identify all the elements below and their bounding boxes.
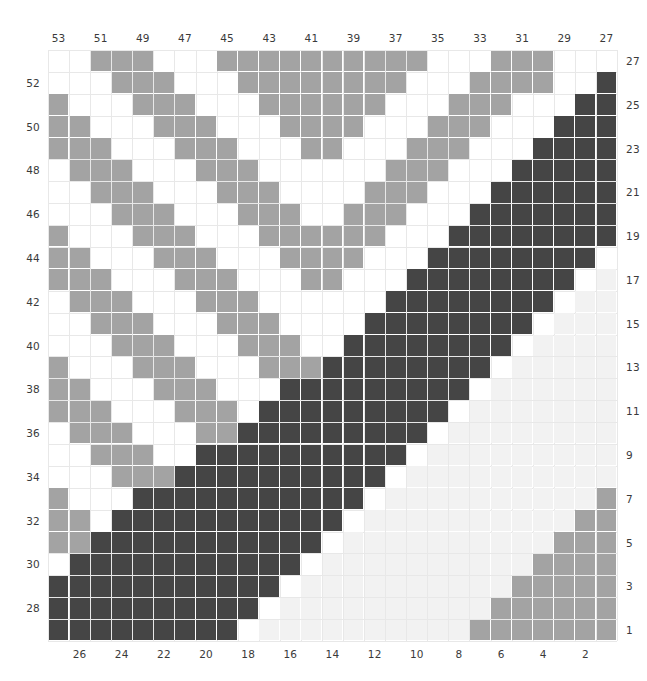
heatmap-cell[interactable] — [344, 357, 364, 378]
heatmap-cell[interactable] — [301, 138, 321, 159]
heatmap-cell[interactable] — [323, 423, 343, 444]
heatmap-cell[interactable] — [554, 335, 574, 356]
heatmap-cell[interactable] — [512, 204, 532, 225]
heatmap-cell[interactable] — [407, 576, 427, 597]
heatmap-cell[interactable] — [470, 291, 490, 312]
heatmap-cell[interactable] — [491, 182, 511, 203]
heatmap-cell[interactable] — [470, 401, 490, 422]
heatmap-cell[interactable] — [133, 510, 153, 531]
heatmap-cell[interactable] — [259, 357, 279, 378]
heatmap-cell[interactable] — [301, 445, 321, 466]
heatmap-cell[interactable] — [575, 313, 595, 334]
heatmap-cell[interactable] — [217, 554, 237, 575]
heatmap-cell[interactable] — [49, 116, 69, 137]
heatmap-cell[interactable] — [112, 313, 132, 334]
heatmap-cell[interactable] — [91, 291, 111, 312]
heatmap-cell[interactable] — [217, 576, 237, 597]
heatmap-cell[interactable] — [470, 94, 490, 115]
heatmap-cell[interactable] — [449, 269, 469, 290]
heatmap-cell[interactable] — [597, 576, 617, 597]
heatmap-cell[interactable] — [428, 291, 448, 312]
heatmap-cell[interactable] — [196, 445, 216, 466]
heatmap-cell[interactable] — [91, 598, 111, 619]
heatmap-cell[interactable] — [512, 248, 532, 269]
heatmap-cell[interactable] — [470, 466, 490, 487]
heatmap-cell[interactable] — [512, 226, 532, 247]
heatmap-cell[interactable] — [323, 401, 343, 422]
heatmap-cell[interactable] — [175, 94, 195, 115]
heatmap-cell[interactable] — [112, 51, 132, 72]
heatmap-cell[interactable] — [280, 72, 300, 93]
heatmap-cell[interactable] — [154, 335, 174, 356]
heatmap-cell[interactable] — [386, 488, 406, 509]
heatmap-cell[interactable] — [280, 532, 300, 553]
heatmap-cell[interactable] — [597, 466, 617, 487]
heatmap-cell[interactable] — [575, 94, 595, 115]
heatmap-cell[interactable] — [238, 204, 258, 225]
heatmap-cell[interactable] — [154, 576, 174, 597]
heatmap-cell[interactable] — [512, 445, 532, 466]
heatmap-cell[interactable] — [533, 248, 553, 269]
heatmap-cell[interactable] — [386, 379, 406, 400]
heatmap-cell[interactable] — [386, 401, 406, 422]
heatmap-cell[interactable] — [280, 51, 300, 72]
heatmap-cell[interactable] — [407, 510, 427, 531]
heatmap-cell[interactable] — [597, 182, 617, 203]
heatmap-cell[interactable] — [491, 313, 511, 334]
heatmap-cell[interactable] — [512, 423, 532, 444]
heatmap-cell[interactable] — [301, 226, 321, 247]
heatmap-cell[interactable] — [554, 445, 574, 466]
heatmap-cell[interactable] — [386, 510, 406, 531]
heatmap-cell[interactable] — [575, 401, 595, 422]
heatmap-cell[interactable] — [344, 72, 364, 93]
heatmap-cell[interactable] — [91, 532, 111, 553]
heatmap-cell[interactable] — [533, 532, 553, 553]
heatmap-cell[interactable] — [301, 576, 321, 597]
heatmap-cell[interactable] — [196, 510, 216, 531]
heatmap-cell[interactable] — [428, 445, 448, 466]
heatmap-cell[interactable] — [217, 51, 237, 72]
heatmap-cell[interactable] — [259, 182, 279, 203]
heatmap-cell[interactable] — [407, 335, 427, 356]
heatmap-cell[interactable] — [407, 182, 427, 203]
heatmap-cell[interactable] — [196, 576, 216, 597]
heatmap-cell[interactable] — [175, 620, 195, 641]
heatmap-cell[interactable] — [554, 598, 574, 619]
heatmap-cell[interactable] — [470, 576, 490, 597]
heatmap-cell[interactable] — [533, 72, 553, 93]
heatmap-cell[interactable] — [344, 335, 364, 356]
heatmap-cell[interactable] — [280, 510, 300, 531]
heatmap-cell[interactable] — [512, 488, 532, 509]
heatmap-cell[interactable] — [491, 488, 511, 509]
heatmap-cell[interactable] — [344, 116, 364, 137]
heatmap-cell[interactable] — [238, 510, 258, 531]
heatmap-cell[interactable] — [323, 94, 343, 115]
heatmap-cell[interactable] — [428, 313, 448, 334]
heatmap-cell[interactable] — [575, 291, 595, 312]
heatmap-cell[interactable] — [449, 94, 469, 115]
heatmap-cell[interactable] — [133, 620, 153, 641]
heatmap-cell[interactable] — [175, 532, 195, 553]
heatmap-cell[interactable] — [49, 488, 69, 509]
heatmap-cell[interactable] — [365, 94, 385, 115]
heatmap-cell[interactable] — [280, 335, 300, 356]
heatmap-cell[interactable] — [365, 554, 385, 575]
heatmap-cell[interactable] — [491, 72, 511, 93]
heatmap-cell[interactable] — [407, 598, 427, 619]
heatmap-cell[interactable] — [238, 598, 258, 619]
heatmap-cell[interactable] — [301, 94, 321, 115]
heatmap-cell[interactable] — [597, 445, 617, 466]
heatmap-cell[interactable] — [407, 379, 427, 400]
heatmap-cell[interactable] — [365, 335, 385, 356]
heatmap-cell[interactable] — [280, 554, 300, 575]
heatmap-cell[interactable] — [470, 204, 490, 225]
heatmap-cell[interactable] — [554, 554, 574, 575]
heatmap-cell[interactable] — [554, 116, 574, 137]
heatmap-cell[interactable] — [49, 620, 69, 641]
heatmap-cell[interactable] — [491, 445, 511, 466]
heatmap-cell[interactable] — [575, 138, 595, 159]
heatmap-cell[interactable] — [386, 160, 406, 181]
heatmap-cell[interactable] — [238, 182, 258, 203]
heatmap-cell[interactable] — [575, 576, 595, 597]
heatmap-cell[interactable] — [449, 488, 469, 509]
